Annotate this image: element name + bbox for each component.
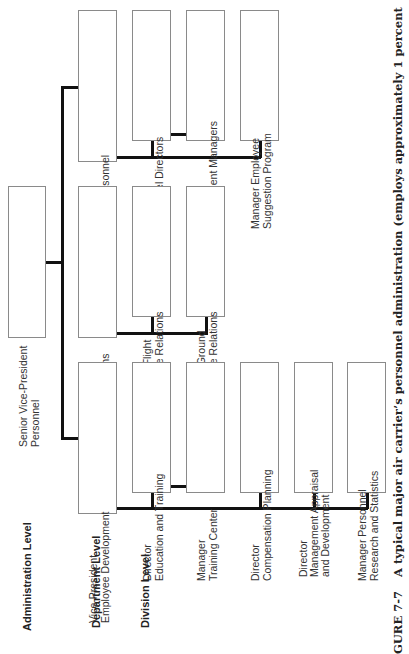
- node-director-field-services: Director Field Services Personnel: [78, 10, 117, 162]
- employee-dev-connector: [61, 437, 78, 440]
- training-center-link: [170, 485, 186, 488]
- node-director-flight-er: Director Flight Employee Relations: [132, 186, 171, 317]
- node-label: Senior Vice-President Personnel: [9, 305, 41, 457]
- node-label: Manager Training Center: [187, 460, 219, 591]
- figure-caption-text: A typical major air carrier’s personnel …: [391, 7, 405, 577]
- senior-vp-connector: [46, 261, 63, 264]
- node-vp-employee-relations: Vice-President Employee Relations: [78, 186, 117, 338]
- node-regional-employment-managers: Regional Employment Managers: [186, 10, 225, 141]
- node-label: Manager Employee Suggestion Program: [241, 108, 273, 239]
- node-senior-vp: Senior Vice-President Personnel: [8, 186, 46, 338]
- regional-link: [170, 133, 186, 136]
- node-manager-training-center: Manager Training Center: [186, 362, 225, 493]
- node-label: Director Compensation Planning: [241, 460, 273, 591]
- node-director-compensation: Director Compensation Planning: [240, 362, 279, 493]
- node-regional-personnel-directors: Regional Personnel Directors: [132, 10, 171, 141]
- node-director-ground-er: Director Ground Employee Relations: [186, 186, 225, 317]
- node-label: Manager Personnel Research and Statistic…: [348, 460, 380, 591]
- node-manager-personnel-research: Manager Personnel Research and Statistic…: [347, 362, 386, 493]
- field-services-connector: [61, 86, 78, 89]
- node-label: Director Management Appraisal and Develo…: [295, 456, 331, 587]
- level-division: Division Level: [139, 554, 151, 628]
- node-director-education-training: Director Education and Training: [132, 362, 171, 493]
- node-director-management-appraisal: Director Management Appraisal and Develo…: [294, 362, 333, 493]
- figure-number: GURE 7-7: [391, 591, 405, 654]
- node-manager-suggestion-program: Manager Employee Suggestion Program: [240, 10, 279, 141]
- figure-caption: GURE 7-7A typical major air carrier’s pe…: [391, 7, 405, 654]
- level-administration: Administration Level: [21, 522, 33, 631]
- level-department: Department Level: [90, 536, 102, 628]
- node-vp-employee-development: Vice-President Employee Development: [78, 362, 117, 514]
